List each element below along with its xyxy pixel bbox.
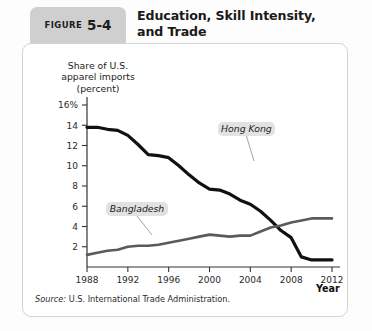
plot-area: Share of U.S. apparel imports (percent) …: [22, 43, 348, 317]
series-line-hong-kong: [87, 127, 332, 260]
figure-container: FIGURE 5-4 Education, Skill Intensity, a…: [0, 0, 372, 331]
series-callout-label: Hong Kong: [221, 123, 272, 134]
source-note: Source: U.S. International Trade Adminis…: [35, 294, 230, 304]
x-axis-title: Year: [316, 283, 340, 294]
figure-title: Education, Skill Intensity, and Trade: [137, 8, 352, 39]
x-tick-label: 2008: [280, 275, 303, 285]
figure-badge: FIGURE 5-4: [30, 7, 126, 43]
y-axis-title-line2: apparel imports: [61, 71, 135, 82]
x-tick-label: 1992: [116, 275, 139, 285]
figure-title-line1: Education, Skill Intensity,: [137, 8, 316, 23]
x-tick-label: 1996: [157, 275, 180, 285]
y-tick-label: 6: [72, 202, 78, 212]
y-axis-title-line3: (percent): [77, 83, 120, 94]
y-tick-label: 2: [72, 242, 78, 252]
y-tick-label: 4: [72, 222, 78, 232]
y-tick-label: 8: [72, 181, 78, 191]
figure-badge-word: FIGURE: [45, 20, 83, 30]
y-tick-label: 12: [67, 141, 78, 151]
series-callout-label: Bangladesh: [110, 203, 165, 214]
y-axis-title-line1: Share of U.S.: [68, 60, 128, 71]
x-tick-label: 2000: [198, 275, 221, 285]
y-axis-title: Share of U.S. apparel imports (percent): [52, 60, 144, 94]
y-tick-label: 16%: [58, 100, 78, 110]
y-tick-label: 10: [67, 161, 79, 171]
source-label: Source:: [35, 294, 66, 304]
figure-title-line2: and Trade: [137, 24, 206, 39]
y-tick-label: 14: [67, 121, 79, 131]
x-tick-label: 2004: [239, 275, 262, 285]
x-tick-label: 1988: [76, 275, 99, 285]
source-text: U.S. International Trade Administration.: [69, 294, 230, 304]
figure-badge-number: 5-4: [87, 17, 111, 33]
series-line-bangladesh: [87, 218, 332, 254]
